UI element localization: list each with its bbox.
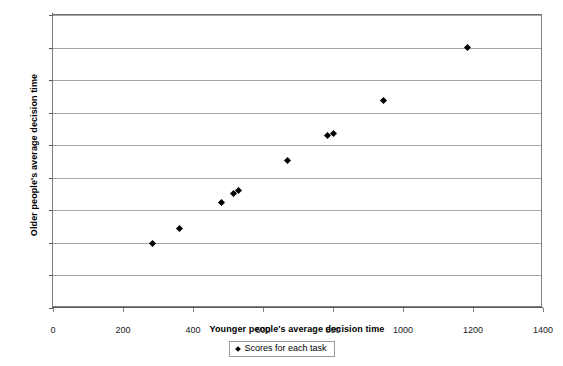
y-tick-mark (49, 145, 53, 146)
y-gridline (53, 15, 541, 16)
data-point (284, 157, 291, 164)
data-point (175, 225, 182, 232)
x-tick-mark (263, 308, 264, 312)
x-tick-mark (123, 308, 124, 312)
x-tick-mark (53, 308, 54, 312)
y-tick-mark (49, 275, 53, 276)
y-gridline (53, 275, 541, 276)
data-point (380, 97, 387, 104)
x-tick-mark (403, 308, 404, 312)
y-axis-title: Older people's average decision time (29, 35, 39, 275)
y-gridline (53, 145, 541, 146)
x-tick-mark (333, 308, 334, 312)
y-tick-mark (49, 113, 53, 114)
y-gridline (53, 243, 541, 244)
plot-area: 0200400600800100012001400160018000200400… (52, 14, 542, 307)
scatter-chart: Older people's average decision time 020… (0, 0, 563, 366)
x-axis-title: Younger people's average decision time (52, 324, 542, 334)
y-tick-mark (49, 15, 53, 16)
data-point (149, 240, 156, 247)
x-tick-mark (193, 308, 194, 312)
x-axis-line (52, 307, 543, 308)
y-tick-mark (49, 48, 53, 49)
x-tick-mark (473, 308, 474, 312)
y-tick-mark (49, 80, 53, 81)
data-point (217, 199, 224, 206)
y-gridline (53, 210, 541, 211)
y-tick-mark (49, 243, 53, 244)
legend-diamond-icon (235, 346, 241, 352)
y-gridline (53, 178, 541, 179)
chart-legend: Scores for each task (228, 341, 334, 357)
legend-label: Scores for each task (244, 343, 326, 354)
y-tick-mark (49, 210, 53, 211)
y-tick-mark (49, 178, 53, 179)
y-gridline (53, 113, 541, 114)
y-gridline (53, 80, 541, 81)
x-tick-mark (543, 308, 544, 312)
data-point (464, 44, 471, 51)
